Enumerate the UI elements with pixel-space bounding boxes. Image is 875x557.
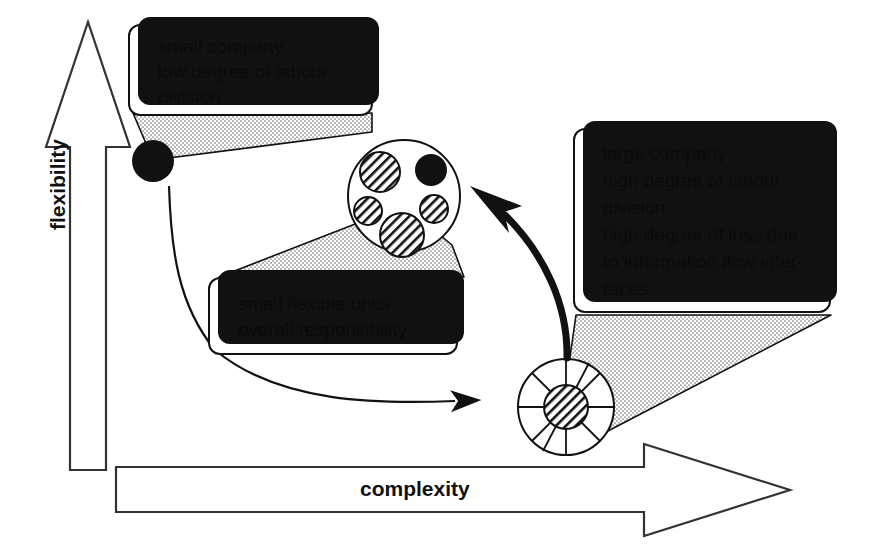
bullet-text: large company — [603, 143, 726, 164]
bullet-item: high degree of loss dueto information fl… — [587, 221, 819, 302]
bullet-dot-icon — [224, 327, 229, 332]
bullet-text-continuation: to information flow inter-faces — [603, 248, 819, 302]
bullet-item: high degree of labourdivision — [587, 167, 819, 221]
callout-body: small company low degree of labourdivisi… — [130, 26, 371, 109]
bullet-item: overall responsibility — [222, 317, 446, 343]
callout-body: small flexible units overall responsibil… — [210, 279, 456, 343]
bullet-item: small flexible units — [222, 291, 446, 317]
bullet-item: large company — [587, 140, 819, 167]
bullet-text-continuation-line: faces — [603, 275, 819, 302]
callout-small-company[interactable]: small company low degree of labourdivisi… — [128, 24, 373, 116]
bullet-text-continuation: division — [158, 84, 361, 109]
callout-body: large company high degree of labourdivis… — [575, 130, 829, 302]
bullet-text: low degree of labour — [158, 61, 328, 82]
callout-large-company[interactable]: large company high degree of labourdivis… — [573, 128, 831, 313]
bullet-dot-icon — [144, 69, 149, 74]
bullet-list: small flexible units overall responsibil… — [222, 291, 446, 343]
bullet-list: large company high degree of labourdivis… — [587, 140, 819, 302]
segmented-wheel-node — [518, 359, 614, 455]
single-solid-node — [132, 140, 174, 182]
bullet-text: small flexible units — [238, 293, 390, 314]
diagram-canvas: small company low degree of labourdivisi… — [0, 0, 875, 557]
bullet-text: high degree of labour — [603, 170, 780, 191]
bullet-dot-icon — [589, 150, 594, 155]
thick-curved-arrow — [470, 186, 567, 358]
bullet-dot-icon — [144, 44, 149, 49]
x-axis-label: complexity — [360, 477, 470, 501]
bullet-text: overall responsibility — [238, 319, 407, 340]
bullet-dot-icon — [589, 177, 594, 182]
flexibility-axis-arrow — [46, 22, 130, 470]
bullet-dot-icon — [589, 231, 594, 236]
callout-small-flexible-units[interactable]: small flexible units overall responsibil… — [208, 277, 458, 355]
bullet-text: small company — [158, 36, 283, 57]
bullet-dot-icon — [224, 301, 229, 306]
y-axis-label: flexibility — [46, 139, 70, 230]
bullet-list: small company low degree of labourdivisi… — [142, 34, 361, 109]
bullet-text-continuation: division — [603, 194, 819, 221]
bullet-item: low degree of labourdivision — [142, 59, 361, 109]
bullet-item: small company — [142, 34, 361, 59]
bullet-text: high degree of loss due — [603, 224, 798, 245]
bullet-text-continuation-line: to information flow inter- — [603, 248, 819, 275]
